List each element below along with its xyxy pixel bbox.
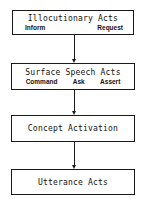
node-title: Illocutionary Acts — [13, 14, 133, 24]
node-concept-activation: Concept Activation — [11, 115, 135, 142]
node-surface-speech-acts: Surface Speech Acts Command Ask Assert — [11, 63, 135, 90]
node-subitems: Command Ask Assert — [12, 78, 134, 86]
subitem-request: Request — [97, 24, 123, 32]
node-title: Utterance Acts — [12, 178, 134, 188]
node-title: Surface Speech Acts — [12, 68, 134, 78]
node-subitems: Inform Request — [13, 24, 133, 32]
arrow-3-line — [74, 142, 75, 165]
subitem-command: Command — [26, 78, 58, 86]
subitem-inform: Inform — [25, 24, 45, 32]
subitem-ask: Ask — [73, 78, 85, 86]
node-title: Concept Activation — [12, 124, 134, 134]
node-illocutionary-acts: Illocutionary Acts Inform Request — [12, 10, 134, 35]
node-utterance-acts: Utterance Acts — [11, 169, 135, 195]
subitem-assert: Assert — [100, 78, 120, 86]
arrow-2-line — [74, 90, 75, 111]
arrow-1-line — [74, 35, 75, 59]
